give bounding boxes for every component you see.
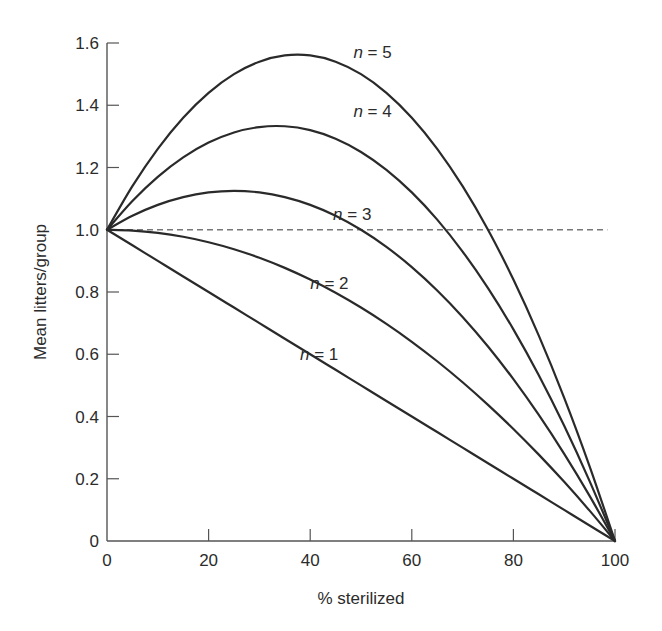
- y-tick-label: 0.2: [75, 470, 99, 489]
- y-axis-title: Mean litters/group: [31, 224, 50, 360]
- y-tick-label: 1.0: [75, 221, 99, 240]
- y-tick-label: 0.8: [75, 283, 99, 302]
- curve-labels: n = 1n = 2n = 3n = 4n = 5: [300, 43, 392, 364]
- curve-label-n1: n = 1: [300, 345, 338, 364]
- x-tick-label: 20: [199, 551, 218, 570]
- curve-n5: [107, 55, 615, 541]
- curve-label-n3: n = 3: [333, 205, 371, 224]
- curve-label-n4: n = 4: [353, 102, 391, 121]
- y-tick-label: 1.6: [75, 34, 99, 53]
- curve-n1: [107, 230, 615, 541]
- y-tick-label: 0.4: [75, 408, 99, 427]
- x-ticks: 020406080100: [102, 529, 629, 570]
- y-tick-label: 0: [90, 532, 99, 551]
- x-tick-label: 0: [102, 551, 111, 570]
- curves: [107, 55, 615, 541]
- x-axis-title: % sterilized: [318, 589, 405, 608]
- curve-n3: [107, 191, 615, 541]
- chart: 00.20.40.60.81.01.21.41.6 020406080100 n…: [0, 0, 662, 631]
- curve-label-n5: n = 5: [353, 43, 391, 62]
- y-ticks: 00.20.40.60.81.01.21.41.6: [75, 34, 119, 551]
- x-tick-label: 80: [504, 551, 523, 570]
- y-tick-label: 0.6: [75, 345, 99, 364]
- y-tick-label: 1.4: [75, 96, 99, 115]
- x-tick-label: 40: [301, 551, 320, 570]
- curve-label-n2: n = 2: [310, 274, 348, 293]
- x-tick-label: 60: [402, 551, 421, 570]
- x-tick-label: 100: [601, 551, 629, 570]
- y-tick-label: 1.2: [75, 159, 99, 178]
